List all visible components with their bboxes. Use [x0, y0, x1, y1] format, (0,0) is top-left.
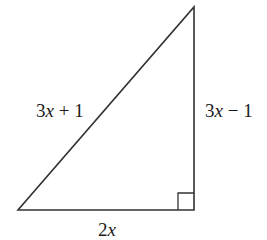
- hypotenuse-label: 3x + 1: [36, 101, 84, 120]
- base-label: 2x: [98, 220, 116, 239]
- right-angle-mark: [178, 193, 194, 210]
- vertical-leg-label: 3x − 1: [205, 101, 253, 120]
